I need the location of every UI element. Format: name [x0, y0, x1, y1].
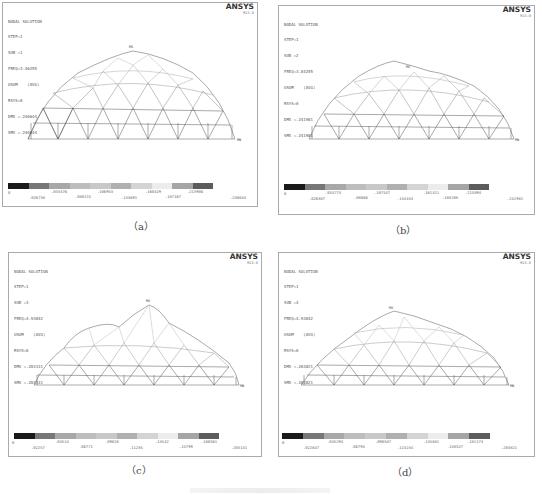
legend-tick: .026887	[309, 196, 325, 201]
panel-b: NODAL SOLUTION STEP=1 SUB =2 FREQ=3.8425…	[278, 5, 535, 215]
max-marker: MX	[406, 65, 411, 69]
legend-tick: 0	[8, 190, 10, 195]
legend-tick: .053476	[51, 189, 67, 194]
panel-d: NODAL SOLUTION STEP=1 SUB =4 FREQ=4.9384…	[278, 252, 535, 457]
legend-tick: .215094	[465, 190, 481, 195]
legend-tick: .106953	[97, 189, 113, 194]
legend-tick: .203131	[231, 445, 247, 450]
legend-tick: .04514	[55, 439, 69, 444]
legend-tick: 0	[284, 191, 286, 196]
legend-tick: .02257	[31, 445, 45, 450]
legend-tick: .026738	[29, 195, 45, 200]
min-marker: MN	[240, 384, 244, 388]
legend-tick: .135881	[423, 439, 439, 444]
legend-tick: .15799	[179, 444, 193, 449]
dome-mesh-icon: MX MN	[3, 3, 259, 208]
min-marker: MN	[515, 138, 519, 142]
legend-tick: .240644	[230, 195, 246, 200]
max-marker: MX	[146, 299, 151, 303]
dome-mesh-icon: MX MN	[9, 253, 263, 458]
legend-tick: .160429	[145, 189, 161, 194]
dome-mesh-icon: MX MN	[279, 253, 536, 458]
legend-tick: .134434	[397, 196, 413, 201]
legend-tick: .181174	[467, 439, 483, 444]
caption-c: （c）	[126, 462, 152, 477]
legend-tick: .09028	[105, 439, 119, 444]
legend-tick: .187167	[165, 194, 181, 199]
legend-tick: .11285	[129, 445, 143, 450]
legend-tick: .045294	[327, 439, 343, 444]
legend-tick: 0	[282, 440, 284, 445]
min-marker: MN	[510, 384, 514, 388]
legend-tick: .203821	[501, 445, 517, 450]
legend-tick: .022647	[303, 445, 319, 450]
legend-tick: .133691	[121, 195, 137, 200]
figure-caption-faded	[190, 488, 330, 493]
caption-a: （a）	[128, 218, 154, 233]
legend-tick: .107547	[374, 190, 390, 195]
legend-tick: .241981	[507, 196, 523, 201]
max-marker: MX	[129, 45, 134, 49]
legend-tick: .188208	[442, 195, 458, 200]
legend-tick: .13542	[155, 439, 169, 444]
legend-tick: .080215	[75, 194, 91, 199]
legend-tick: .053774	[325, 190, 341, 195]
legend-tick: .180561	[201, 439, 217, 444]
legend-tick: .161321	[423, 190, 439, 195]
legend-tick: .113234	[397, 445, 413, 450]
legend-tick: .06794	[351, 444, 365, 449]
caption-b: （b）	[390, 222, 416, 237]
caption-d: （d）	[392, 464, 418, 479]
panel-a: NODAL SOLUTION STEP=1 SUB =1 FREQ=3.4625…	[2, 2, 258, 207]
legend-tick: .158527	[447, 444, 463, 449]
legend-tick: .213906	[187, 189, 203, 194]
legend-tick: .090587	[375, 439, 391, 444]
legend-tick: 0	[12, 440, 14, 445]
legend-tick: .08066	[354, 195, 368, 200]
legend-tick: .06771	[79, 444, 93, 449]
min-marker: MN	[237, 138, 241, 142]
max-marker: MX	[389, 306, 394, 310]
panel-c: NODAL SOLUTION STEP=1 SUB =3 FREQ=4.9384…	[8, 252, 262, 457]
